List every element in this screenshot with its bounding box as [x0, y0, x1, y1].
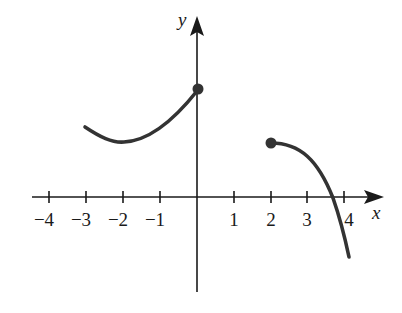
tick-label: −3 — [71, 209, 91, 230]
right-curve — [271, 143, 349, 257]
function-graph: −4 −3 −2 −1 1 2 3 4 x y — [0, 0, 402, 313]
tick-label: 1 — [229, 209, 239, 230]
tick-label: 4 — [344, 209, 354, 230]
x-axis-label: x — [371, 202, 381, 223]
plot-canvas: −4 −3 −2 −1 1 2 3 4 x y — [0, 0, 402, 313]
y-axis-label: y — [176, 9, 187, 30]
closed-dot-at-2 — [266, 138, 277, 149]
tick-label: −1 — [145, 209, 165, 230]
tick-label: 2 — [266, 209, 276, 230]
tick-label: 3 — [302, 209, 312, 230]
tick-label: −4 — [34, 209, 55, 230]
closed-dot-at-0 — [193, 84, 204, 95]
x-tick-labels: −4 −3 −2 −1 1 2 3 4 — [34, 209, 354, 230]
left-curve — [85, 91, 197, 142]
tick-label: −2 — [108, 209, 128, 230]
